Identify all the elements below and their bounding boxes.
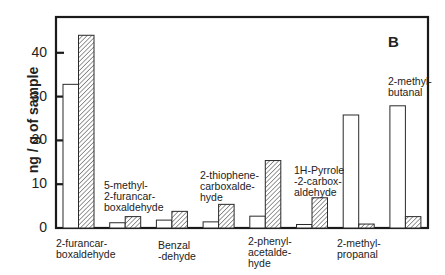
category-label: 5-methyl- 2-furancar- boxaldehyde bbox=[104, 180, 164, 213]
hatched-bar bbox=[405, 217, 421, 228]
open-bar bbox=[203, 222, 219, 228]
category-label: 2-phenyl- acetalde- hyde bbox=[248, 236, 292, 269]
open-bar bbox=[110, 223, 126, 228]
open-bar bbox=[390, 106, 406, 228]
hatched-bar bbox=[172, 211, 188, 228]
y-tick-label: 0 bbox=[23, 219, 47, 235]
hatched-bar bbox=[265, 161, 281, 228]
category-label: 2-thiophene- carboxalde- hyde bbox=[200, 170, 259, 203]
open-bar bbox=[297, 224, 313, 228]
panel-label: B bbox=[388, 33, 399, 50]
hatched-bar bbox=[359, 224, 375, 228]
category-label: 1H-Pyrrole -2-carbox- aldehyde bbox=[294, 165, 344, 198]
y-axis-label: ng / g of sample bbox=[25, 55, 41, 185]
hatched-bar bbox=[219, 204, 235, 228]
bar-chart bbox=[0, 0, 445, 275]
open-bar bbox=[250, 216, 265, 228]
hatched-bar bbox=[312, 198, 328, 228]
hatched-bar bbox=[79, 35, 95, 228]
category-label: 2-methyl- butanal bbox=[388, 76, 432, 98]
open-bar bbox=[63, 84, 79, 228]
hatched-bar bbox=[125, 217, 141, 228]
open-bar bbox=[343, 115, 359, 228]
category-label: 2-methyl- propanal bbox=[337, 238, 381, 260]
category-label: 2-furancar- boxaldehyde bbox=[56, 238, 116, 260]
open-bar bbox=[156, 220, 172, 228]
category-label: Benzal -dehyde bbox=[158, 240, 196, 262]
